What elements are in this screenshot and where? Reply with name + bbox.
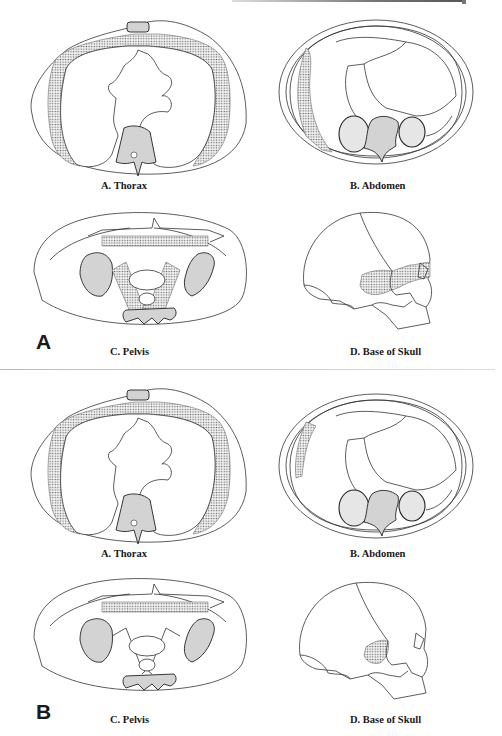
caption-abdomen: B. Abdomen [350, 548, 405, 559]
panel-a: A. Thorax B. Abdomen [0, 0, 502, 365]
caption-abdomen: B. Abdomen [350, 180, 405, 191]
caption-skull: D. Base of Skull [350, 346, 421, 357]
thorax-diagram [28, 14, 248, 174]
caption-pelvis: C. Pelvis [110, 714, 149, 725]
thorax-diagram [28, 382, 248, 542]
caption-thorax: A. Thorax [101, 548, 147, 559]
caption-skull: D. Base of Skull [350, 714, 421, 725]
panel-b: A. Thorax B. Abdomen [0, 370, 502, 735]
skull-diagram [300, 205, 445, 335]
skull-diagram [296, 575, 441, 705]
abdomen-diagram [276, 390, 476, 545]
caption-pelvis: C. Pelvis [110, 346, 149, 357]
abdomen-diagram [276, 16, 476, 171]
panel-label-b: B [36, 700, 51, 724]
panel-label-a: A [36, 330, 51, 354]
caption-thorax: A. Thorax [101, 180, 147, 191]
pelvis-diagram [30, 566, 250, 696]
pelvis-diagram [30, 200, 250, 330]
